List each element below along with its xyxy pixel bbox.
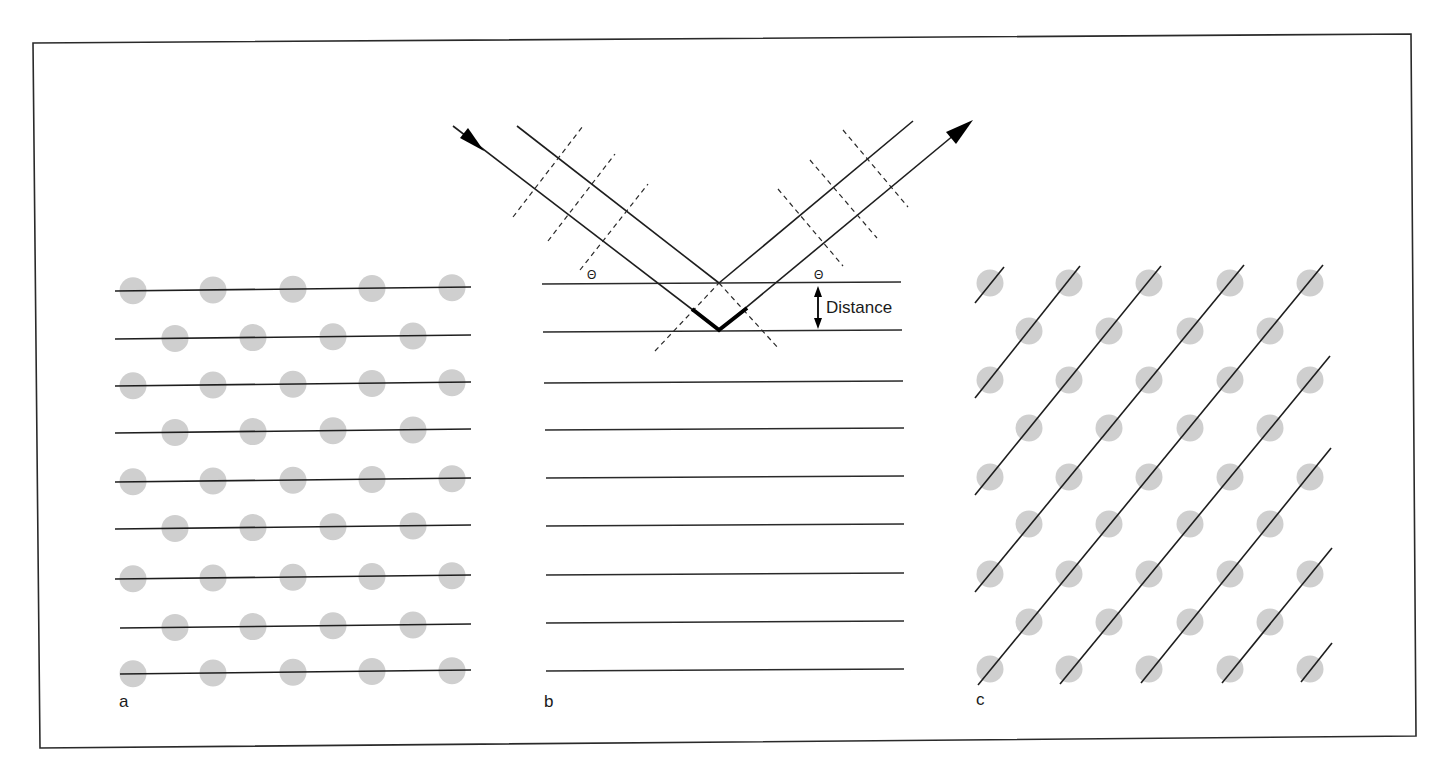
reflected-ray-1	[719, 121, 913, 283]
atom	[1217, 656, 1244, 683]
panel-label-b: b	[544, 692, 553, 711]
wavefront-reflected-3	[843, 130, 908, 207]
panel-a-lattice-horizontal	[115, 274, 471, 687]
incident-ray-1	[453, 126, 719, 330]
panel-c-lattice-diagonal	[975, 265, 1332, 685]
wavefront-incident-3	[580, 184, 648, 270]
bragg-diffraction-diagram: Θ Θ Distance a b c	[0, 0, 1455, 781]
path-difference-segment	[692, 308, 747, 330]
atom	[1056, 656, 1083, 683]
reflected-arrowhead-icon	[946, 120, 973, 144]
theta-label-reflected: Θ	[814, 268, 823, 282]
panel-label-c: c	[976, 690, 985, 709]
panel-b-bragg-reflection: Θ Θ Distance	[453, 120, 973, 671]
lattice-plane	[546, 669, 904, 671]
diagonal-plane	[975, 265, 1244, 592]
path-difference-perpendicular-right	[719, 283, 779, 349]
theta-label-incident: Θ	[587, 268, 596, 282]
wavefront-incident-2	[548, 154, 615, 241]
lattice-plane	[544, 381, 903, 383]
distance-label: Distance	[826, 298, 892, 317]
lattice-plane	[542, 282, 901, 284]
incident-ray-2	[517, 126, 719, 283]
lattice-plane	[545, 428, 904, 430]
incident-arrowhead-icon	[460, 128, 484, 151]
lattice-plane	[546, 621, 904, 623]
distance-double-arrow-icon	[814, 286, 822, 329]
path-difference-perpendicular-left	[655, 283, 719, 351]
panel-label-a: a	[119, 692, 129, 711]
atom	[1136, 656, 1163, 683]
lattice-plane	[546, 476, 904, 478]
figure-frame	[33, 34, 1416, 748]
lattice-plane	[543, 330, 902, 332]
wavefront-incident-1	[513, 126, 583, 217]
lattice-plane	[546, 524, 904, 526]
lattice-plane	[546, 573, 904, 575]
lattice-planes	[542, 282, 904, 671]
